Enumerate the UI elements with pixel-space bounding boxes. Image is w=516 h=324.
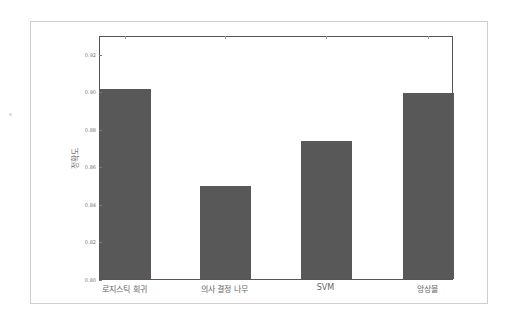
x-tick-label: 의사 결정 나무 xyxy=(201,283,248,294)
y-tick-mark xyxy=(99,280,102,281)
y-tick-mark xyxy=(99,167,102,168)
y-tick-mark xyxy=(99,205,102,206)
y-tick-label: 0.90 xyxy=(85,89,96,95)
y-tick-label: 0.80 xyxy=(85,277,96,283)
bar-3 xyxy=(403,93,454,279)
y-tick-label: 0.88 xyxy=(85,127,96,133)
y-tick-mark xyxy=(99,242,102,243)
x-tick-label: 앙상블 xyxy=(417,283,438,294)
plot-area xyxy=(99,36,453,280)
x-tick-label: SVM xyxy=(317,283,334,292)
top-tick-mark xyxy=(225,36,226,39)
y-tick-label: 0.84 xyxy=(85,202,96,208)
x-tick-label: 로지스틱 회귀 xyxy=(102,283,147,294)
y-tick-label: 0.92 xyxy=(85,52,96,58)
y-axis-label: 정확도 xyxy=(69,148,80,169)
decorative-speck xyxy=(9,113,12,116)
y-tick-label: 0.86 xyxy=(85,164,96,170)
top-tick-mark xyxy=(125,36,126,39)
y-tick-mark xyxy=(99,55,102,56)
y-tick-mark xyxy=(99,92,102,93)
y-tick-label: 0.82 xyxy=(85,239,96,245)
top-tick-mark xyxy=(428,36,429,39)
bar-1 xyxy=(200,186,251,279)
y-tick-mark xyxy=(99,130,102,131)
top-tick-mark xyxy=(326,36,327,39)
bar-0 xyxy=(100,89,151,279)
bar-2 xyxy=(301,141,352,279)
